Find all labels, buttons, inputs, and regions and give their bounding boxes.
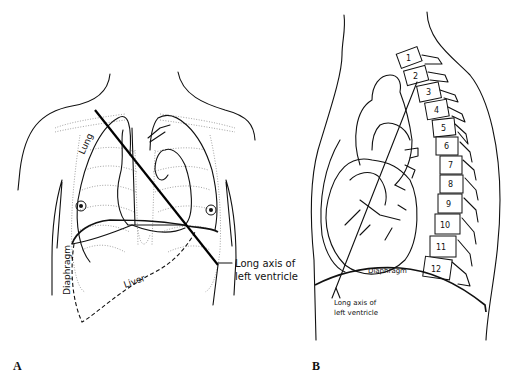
svg-text:1: 1 (406, 54, 411, 63)
axis-label-b-line1: Long axis of (334, 299, 377, 307)
diaphragm-inner-a (72, 225, 185, 244)
vertebra-11: 11 (430, 236, 456, 257)
diaphragm-label-b: Diaphragm (368, 267, 407, 275)
svg-text:5: 5 (441, 124, 446, 133)
long-axis-continuation-a (213, 265, 218, 305)
panel-a: Lung Liver Diaphragm Long axis of left v… (13, 72, 298, 373)
axis-label-a-line1: Long axis of (235, 258, 296, 269)
axis-label-a-line2: left ventricle (235, 271, 298, 282)
diaphragm-label-a: Diaphragm (62, 245, 72, 295)
torso-side-left (52, 180, 62, 295)
figure-canvas: Lung Liver Diaphragm Long axis of left v… (0, 0, 510, 379)
clavicle-left (55, 114, 125, 132)
axis-pointer-b (336, 288, 340, 298)
long-axis-line-a (95, 110, 218, 265)
vertebra-1: 1 (396, 47, 422, 69)
vertebra-9: 9 (438, 194, 462, 213)
svg-text:2: 2 (413, 72, 418, 81)
torso-outline-right (178, 72, 255, 140)
liver-label: Liver (122, 273, 146, 290)
pericardium (321, 140, 345, 272)
panel-letter-a: A (13, 359, 22, 373)
vertebra-8: 8 (440, 175, 463, 193)
vertebra-10: 10 (435, 214, 460, 234)
rib-cage (72, 135, 221, 292)
diaphragm-line-a (72, 220, 218, 244)
svg-text:10: 10 (440, 221, 450, 230)
svg-text:12: 12 (431, 265, 441, 274)
svg-text:3: 3 (426, 88, 431, 97)
vertebra-7: 7 (440, 156, 462, 174)
panel-letter-b: B (312, 359, 320, 373)
body-front-outline (311, 15, 344, 340)
vertebra-4: 4 (425, 99, 450, 120)
nipple-right (206, 205, 216, 215)
svg-text:6: 6 (444, 142, 449, 151)
vertebra-3: 3 (417, 82, 442, 102)
svg-text:9: 9 (446, 200, 451, 209)
torso-outline-left (18, 74, 110, 190)
vertebra-5: 5 (432, 118, 456, 137)
vertebra-6: 6 (436, 137, 458, 155)
heart-lateral (326, 159, 417, 274)
svg-text:11: 11 (436, 243, 446, 252)
vertebra-2: 2 (404, 65, 429, 85)
svg-text:7: 7 (448, 161, 453, 170)
panel-b: 1 2 3 4 5 6 7 (311, 12, 500, 373)
svg-text:8: 8 (448, 180, 453, 189)
svg-text:4: 4 (434, 106, 439, 115)
clavicle-right (160, 114, 235, 132)
axis-label-b-line2: left ventricle (334, 309, 378, 317)
